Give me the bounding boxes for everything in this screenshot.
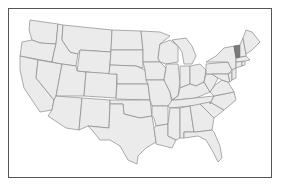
state-new-jersey[interactable]: New Jersey <box>232 68 236 80</box>
state-new-mexico[interactable]: New Mexico <box>79 98 110 130</box>
state-arkansas[interactable]: Arkansas <box>152 106 168 126</box>
state-colorado[interactable]: Colorado <box>84 72 117 98</box>
state-rhode-island[interactable]: Rhode Island <box>242 61 245 66</box>
state-montana[interactable]: Montana <box>62 25 112 54</box>
state-kansas[interactable]: Kansas <box>116 84 150 100</box>
state-wyoming[interactable]: Wyoming <box>77 50 111 74</box>
us-states-map: WashingtonOregonCaliforniaNevadaIdahoMon… <box>0 0 284 185</box>
state-florida[interactable]: Florida <box>184 130 222 162</box>
state-maine[interactable]: Maine <box>243 30 260 54</box>
state-pennsylvania[interactable]: Pennsylvania <box>206 62 232 74</box>
state-north-dakota[interactable]: North Dakota <box>111 30 143 50</box>
state-wisconsin[interactable]: Wisconsin <box>158 40 178 64</box>
state-iowa[interactable]: Iowa <box>143 62 166 80</box>
state-mississippi[interactable]: Mississippi <box>168 108 180 140</box>
